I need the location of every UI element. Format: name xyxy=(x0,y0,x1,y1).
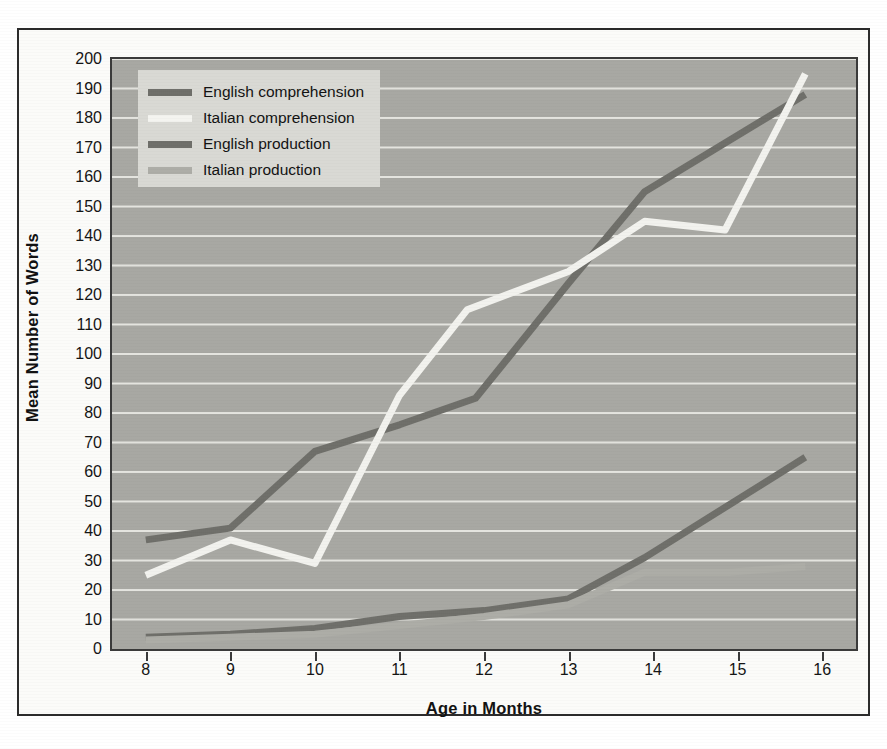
x-tick-label: 9 xyxy=(205,661,255,679)
x-tick-mark xyxy=(146,652,148,661)
legend-item-italian-comprehension: Italian comprehension xyxy=(148,105,370,131)
x-axis-title: Age in Months xyxy=(110,699,858,718)
x-tick-mark xyxy=(822,652,824,661)
y-tick-label: 120 xyxy=(56,286,102,304)
y-axis-title: Mean Number of Words xyxy=(23,178,42,478)
x-tick-label: 15 xyxy=(713,661,763,679)
y-tick-label: 30 xyxy=(56,552,102,570)
y-tick-label: 90 xyxy=(56,375,102,393)
y-tick-label: 110 xyxy=(56,316,102,334)
y-tick-label: 10 xyxy=(56,611,102,629)
series-line-italian-production xyxy=(146,566,806,640)
y-tick-label: 60 xyxy=(56,463,102,481)
y-tick-label: 70 xyxy=(56,434,102,452)
x-tick-label: 11 xyxy=(374,661,424,679)
x-tick-mark xyxy=(569,652,571,661)
x-tick-label: 10 xyxy=(290,661,340,679)
y-tick-label: 170 xyxy=(56,139,102,157)
x-tick-label: 12 xyxy=(459,661,509,679)
legend-swatch-icon xyxy=(148,115,192,122)
y-tick-label: 80 xyxy=(56,404,102,422)
y-tick-label: 0 xyxy=(56,640,102,658)
legend-item-italian-production: Italian production xyxy=(148,157,370,183)
y-tick-label: 100 xyxy=(56,345,102,363)
legend-label: English comprehension xyxy=(203,83,364,101)
x-tick-mark xyxy=(315,652,317,661)
figure-page: Mean Number of Words 2001901801701601501… xyxy=(0,0,887,749)
legend-label: Italian comprehension xyxy=(203,109,355,127)
y-tick-label: 200 xyxy=(56,50,102,68)
x-tick-label: 13 xyxy=(544,661,594,679)
legend-swatch-icon xyxy=(148,167,192,174)
legend-item-english-comprehension: English comprehension xyxy=(148,79,370,105)
y-tick-label: 180 xyxy=(56,109,102,127)
x-tick-mark xyxy=(484,652,486,661)
x-tick-mark xyxy=(738,652,740,661)
x-axis-tick-labels: 8910111213141516 xyxy=(0,661,887,687)
x-tick-label: 14 xyxy=(628,661,678,679)
y-tick-label: 190 xyxy=(56,80,102,98)
y-tick-label: 160 xyxy=(56,168,102,186)
x-tick-label: 16 xyxy=(797,661,847,679)
y-tick-label: 50 xyxy=(56,493,102,511)
line-chart: Mean Number of Words 2001901801701601501… xyxy=(0,0,887,749)
x-tick-mark xyxy=(399,652,401,661)
y-axis-tick-labels: 2001901801701601501401301201101009080706… xyxy=(46,0,102,749)
legend-label: Italian production xyxy=(203,161,321,179)
legend-swatch-icon xyxy=(148,89,192,96)
y-tick-label: 150 xyxy=(56,198,102,216)
y-tick-label: 40 xyxy=(56,522,102,540)
y-tick-label: 130 xyxy=(56,257,102,275)
x-tick-mark xyxy=(653,652,655,661)
legend-item-english-production: English production xyxy=(148,131,370,157)
y-tick-label: 20 xyxy=(56,581,102,599)
x-tick-mark xyxy=(230,652,232,661)
legend-label: English production xyxy=(203,135,331,153)
y-tick-label: 140 xyxy=(56,227,102,245)
legend: English comprehension Italian comprehens… xyxy=(138,70,380,187)
legend-swatch-icon xyxy=(148,141,192,148)
x-tick-label: 8 xyxy=(121,661,171,679)
